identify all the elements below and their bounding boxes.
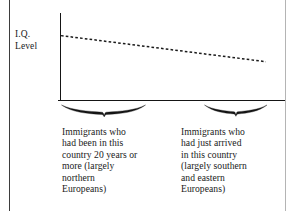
left-caption-line-1: Immigrants who	[62, 126, 168, 137]
right-group-caption: Immigrants who had just arrived in this …	[181, 126, 285, 194]
left-caption-line-4: more (largely	[62, 160, 168, 171]
right-caption-line-6: Europeans)	[181, 183, 285, 194]
right-caption-line-1: Immigrants who	[181, 126, 285, 137]
left-caption-line-5: northern	[62, 172, 168, 183]
plot-area: I.Q. Level Immigrants who had been in th…	[0, 0, 294, 211]
left-caption-line-3: country 20 years or	[62, 149, 168, 160]
left-caption-line-2: had been in this	[62, 137, 168, 148]
right-group-brace	[205, 105, 268, 116]
right-caption-line-3: in this country	[181, 149, 285, 160]
left-group-caption: Immigrants who had been in this country …	[62, 126, 168, 194]
right-caption-line-4: (largely southern	[181, 160, 285, 171]
iq-trend-dashed-line	[61, 36, 266, 62]
left-group-brace	[62, 105, 146, 117]
iq-level-immigrants-figure: I.Q. Level Immigrants who had been in th…	[0, 0, 294, 211]
left-caption-line-6: Europeans)	[62, 183, 168, 194]
right-caption-line-5: and eastern	[181, 172, 285, 183]
right-caption-line-2: had just arrived	[181, 137, 285, 148]
